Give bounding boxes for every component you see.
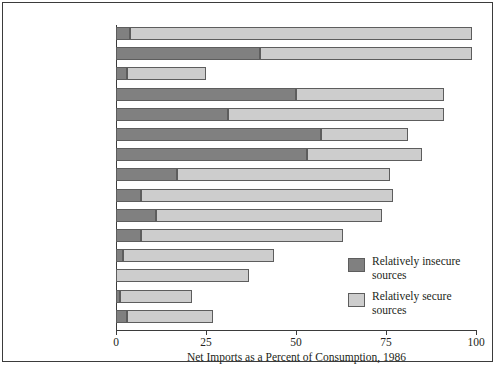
legend-label-secure: Relatively secure sources [372, 290, 492, 317]
legend-label-insecure: Relatively insecure sources [372, 255, 492, 282]
bar-segment-secure [141, 189, 393, 202]
bar-segment-insecure [116, 249, 123, 262]
x-tick [206, 330, 207, 335]
bar-segment-insecure [116, 148, 307, 161]
x-tick-label: 0 [96, 336, 136, 348]
bar-segment-secure [321, 128, 407, 141]
x-tick-label: 75 [366, 336, 406, 348]
legend-label-insecure-line1: Relatively insecure [372, 255, 460, 267]
bar-segment-insecure [116, 128, 321, 141]
bar-segment-secure [307, 148, 422, 161]
bar-segment-secure [228, 108, 444, 121]
bar-segment-insecure [116, 88, 296, 101]
bar-segment-secure [123, 249, 274, 262]
plot-area: ColumbiumManganeseAluminum oresCobaltTan… [116, 27, 476, 330]
bar-segment-insecure [116, 168, 177, 181]
legend-label-secure-line1: Relatively secure [372, 290, 452, 302]
bar-segment-insecure [116, 229, 141, 242]
bar-segment-secure [120, 290, 192, 303]
x-tick-label: 25 [186, 336, 226, 348]
bar-segment-insecure [116, 47, 260, 60]
bar-segment-secure [156, 209, 383, 222]
bar-segment-insecure [116, 67, 127, 80]
legend-label-secure-line2: sources [372, 304, 407, 316]
x-tick [476, 330, 477, 335]
bar-segment-secure [141, 229, 343, 242]
bar-segment-secure [130, 27, 472, 40]
legend-label-insecure-line2: sources [372, 269, 407, 281]
x-tick [296, 330, 297, 335]
bar-segment-insecure [116, 310, 127, 323]
bar-segment-secure [127, 310, 213, 323]
x-tick [116, 330, 117, 335]
chart-frame: ColumbiumManganeseAluminum oresCobaltTan… [2, 2, 493, 362]
bar-segment-secure [177, 168, 389, 181]
bar-segment-secure [296, 88, 444, 101]
bar-segment-secure [116, 269, 249, 282]
bar-segment-secure [127, 67, 206, 80]
bar-segment-insecure [116, 189, 141, 202]
bar-segment-secure [260, 47, 472, 60]
legend-swatch-insecure [348, 258, 365, 272]
x-tick-label: 50 [276, 336, 316, 348]
legend-swatch-secure [348, 293, 365, 307]
bar-segment-insecure [116, 108, 228, 121]
x-tick-label: 100 [456, 336, 496, 348]
bar-segment-insecure [116, 209, 156, 222]
x-tick [386, 330, 387, 335]
bar-segment-insecure [116, 27, 130, 40]
x-axis-title: Net Imports as a Percent of Consumption,… [116, 351, 477, 363]
